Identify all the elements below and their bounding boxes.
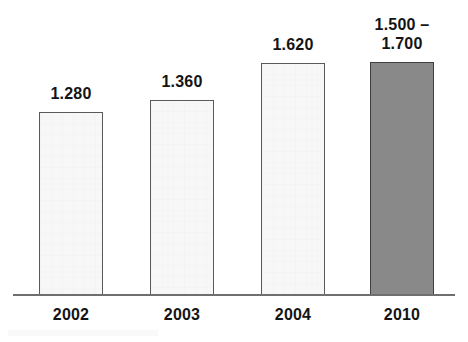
category-label-2002: 2002	[19, 305, 123, 324]
category-label-2004: 2004	[241, 305, 345, 324]
bar-value-label-2004: 1.620	[241, 35, 345, 54]
category-label-2010: 2010	[350, 305, 454, 324]
bar-2004[interactable]	[261, 63, 325, 295]
bar-2010[interactable]	[370, 62, 434, 295]
category-label-2003: 2003	[130, 305, 234, 324]
bar-2003[interactable]	[150, 100, 214, 295]
plot-area: 1.280 1.360 1.620 1.500 – 1.700	[0, 0, 468, 296]
x-axis-line	[13, 294, 455, 296]
bar-chart: 1.280 1.360 1.620 1.500 – 1.700 2002 200…	[0, 0, 468, 342]
bar-value-label-2002: 1.280	[19, 84, 123, 103]
bar-value-label-2010: 1.500 – 1.700	[350, 15, 454, 53]
page-artifact	[8, 330, 158, 336]
bar-value-label-2003: 1.360	[130, 72, 234, 91]
bar-2002[interactable]	[39, 112, 103, 295]
